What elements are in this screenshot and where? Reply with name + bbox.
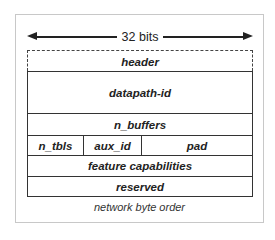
field-n-tbls: n_tbls xyxy=(27,135,84,156)
field-pad-label: pad xyxy=(187,140,207,152)
byte-order-note: network byte order xyxy=(15,201,264,213)
width-label-wrap: 32 bits xyxy=(27,29,253,45)
field-reserved: reserved xyxy=(27,176,253,197)
field-aux-id-label: aux_id xyxy=(94,140,130,152)
field-feature-capabilities: feature capabilities xyxy=(27,155,253,177)
field-aux-id: aux_id xyxy=(83,135,142,156)
field-pad: pad xyxy=(141,135,253,156)
field-feature-capabilities-label: feature capabilities xyxy=(88,160,192,172)
field-datapath-id: datapath-id xyxy=(27,71,253,114)
field-header: header xyxy=(27,50,253,71)
field-datapath-id-label: datapath-id xyxy=(109,87,171,99)
width-label: 32 bits xyxy=(117,30,164,44)
width-indicator: 32 bits xyxy=(27,29,253,45)
field-n-buffers: n_buffers xyxy=(27,113,253,136)
field-header-label: header xyxy=(28,51,252,72)
field-reserved-label: reserved xyxy=(116,181,164,193)
field-n-tbls-label: n_tbls xyxy=(39,140,73,152)
field-n-buffers-label: n_buffers xyxy=(114,119,166,131)
